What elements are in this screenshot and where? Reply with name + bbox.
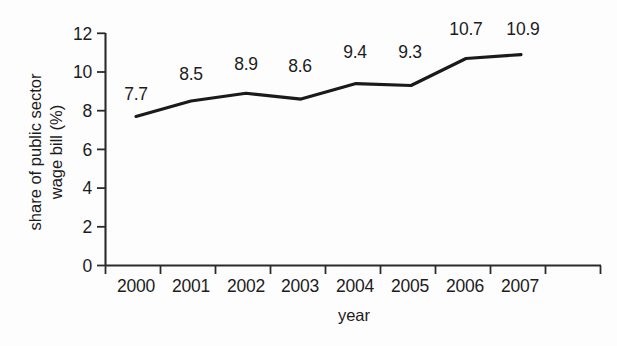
x-tick-label-2002: 2002 — [227, 276, 265, 296]
point-label-2004: 9.4 — [343, 42, 367, 62]
y-tick-label-10: 10 — [73, 62, 93, 82]
point-label-2002: 8.9 — [234, 54, 258, 74]
x-tick-label-2001: 2001 — [172, 276, 210, 296]
point-label-2000: 7.7 — [124, 84, 148, 104]
y-axis-label-line2: wage bill (%) — [47, 105, 65, 200]
point-label-2006: 10.7 — [449, 19, 482, 39]
point-label-2007: 10.9 — [506, 19, 539, 39]
y-tick-label-6: 6 — [82, 140, 92, 160]
y-tick-label-4: 4 — [82, 178, 92, 198]
point-label-2003: 8.6 — [288, 56, 312, 76]
x-tick-label-2004: 2004 — [336, 276, 375, 296]
x-tick-label-2005: 2005 — [391, 276, 429, 296]
x-tick-label-2000: 2000 — [117, 276, 156, 296]
y-tick-label-12: 12 — [73, 24, 92, 44]
y-tick-label-0: 0 — [82, 256, 92, 276]
line-chart: share of public sector wage bill (%) 0 2… — [0, 0, 617, 346]
x-tick-label-2006: 2006 — [446, 276, 484, 296]
y-tick-label-8: 8 — [82, 101, 92, 121]
y-tick-label-2: 2 — [82, 217, 92, 237]
x-tick-label-2007: 2007 — [501, 276, 539, 296]
x-axis-label: year — [338, 306, 371, 324]
point-label-2005: 9.3 — [398, 42, 422, 62]
y-axis-label-line1: share of public sector — [26, 73, 44, 230]
point-label-2001: 8.5 — [179, 64, 203, 84]
x-tick-label-2003: 2003 — [281, 276, 319, 296]
chart-figure: share of public sector wage bill (%) 0 2… — [0, 0, 617, 346]
